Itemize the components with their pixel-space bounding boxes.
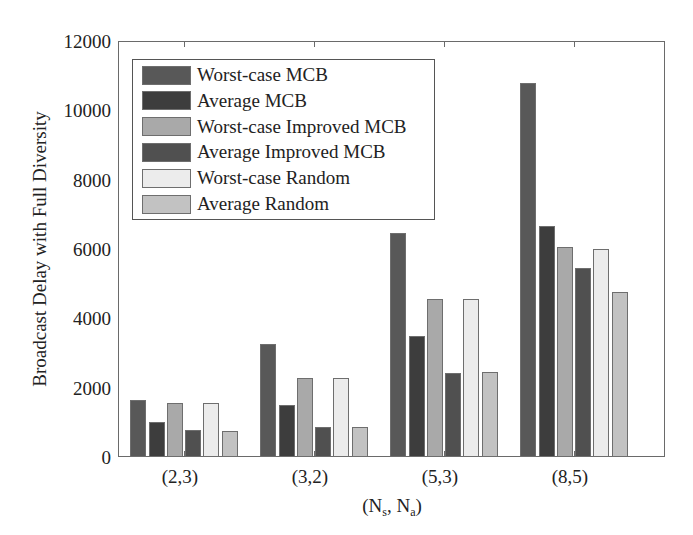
- x-tick-label: (2,3): [162, 466, 198, 488]
- bar: [593, 249, 609, 457]
- bar: [352, 427, 368, 457]
- bar: [463, 299, 479, 457]
- bar: [482, 372, 498, 457]
- bar: [203, 403, 219, 457]
- legend-swatch: [142, 169, 191, 188]
- bar: [333, 378, 349, 457]
- legend-item: Average Random: [142, 194, 329, 214]
- x-tick-mark: [184, 451, 185, 457]
- legend-label: Average MCB: [197, 91, 307, 111]
- bar: [130, 400, 146, 457]
- legend-item: Worst-case Improved MCB: [142, 117, 407, 137]
- legend-swatch: [142, 117, 191, 136]
- legend: Worst-case MCBAverage MCBWorst-case Impr…: [132, 59, 435, 220]
- y-axis-label: Broadcast Delay with Full Diversity: [29, 111, 51, 386]
- y-tick-label: 12000: [64, 32, 112, 51]
- legend-item: Average MCB: [142, 91, 307, 111]
- legend-swatch: [142, 143, 191, 162]
- bar: [539, 226, 555, 457]
- bar: [222, 431, 238, 457]
- x-tick-label: (8,5): [552, 466, 588, 488]
- legend-label: Average Random: [197, 194, 329, 214]
- bar: [260, 344, 276, 457]
- x-tick-mark: [314, 451, 315, 457]
- legend-swatch: [142, 195, 191, 214]
- y-tick-label: 2000: [73, 378, 111, 397]
- legend-item: Average Improved MCB: [142, 142, 386, 162]
- bar: [167, 403, 183, 457]
- legend-item: Worst-case Random: [142, 168, 350, 188]
- y-tick-label: 6000: [73, 240, 111, 259]
- bar: [297, 378, 313, 457]
- x-tick-mark: [574, 451, 575, 457]
- y-tick-label: 10000: [64, 101, 112, 120]
- bar: [575, 268, 591, 457]
- legend-label: Average Improved MCB: [197, 142, 386, 162]
- x-tick-label: (5,3): [422, 466, 458, 488]
- legend-label: Worst-case MCB: [197, 65, 328, 85]
- legend-label: Worst-case Improved MCB: [197, 117, 407, 137]
- bar: [149, 422, 165, 457]
- bar: [185, 430, 201, 457]
- bar: [409, 336, 425, 457]
- legend-swatch: [142, 66, 191, 85]
- x-axis-label-part: , N: [387, 495, 410, 516]
- bar-chart: Broadcast Delay with Full Diversity 0200…: [0, 0, 693, 535]
- x-tick-mark: [444, 451, 445, 457]
- x-tick-label: (3,2): [292, 466, 328, 488]
- x-tick-mark: [314, 41, 315, 47]
- bar: [279, 405, 295, 457]
- legend-item: Worst-case MCB: [142, 65, 328, 85]
- x-axis-label: (Ns, Na): [362, 495, 422, 520]
- bar: [315, 427, 331, 457]
- bar: [612, 292, 628, 457]
- y-tick-label: 0: [102, 448, 112, 467]
- bar: [520, 83, 536, 457]
- x-axis-label-part: (N: [362, 495, 382, 516]
- legend-swatch: [142, 91, 191, 110]
- y-tick-label: 4000: [73, 309, 111, 328]
- legend-label: Worst-case Random: [197, 168, 350, 188]
- bar: [557, 247, 573, 457]
- bar: [427, 299, 443, 457]
- x-tick-mark: [444, 41, 445, 47]
- y-tick-label: 8000: [73, 170, 111, 189]
- x-axis-label-part: ): [415, 495, 421, 516]
- x-tick-mark: [574, 41, 575, 47]
- bar: [390, 233, 406, 457]
- x-tick-mark: [184, 41, 185, 47]
- bar: [445, 373, 461, 457]
